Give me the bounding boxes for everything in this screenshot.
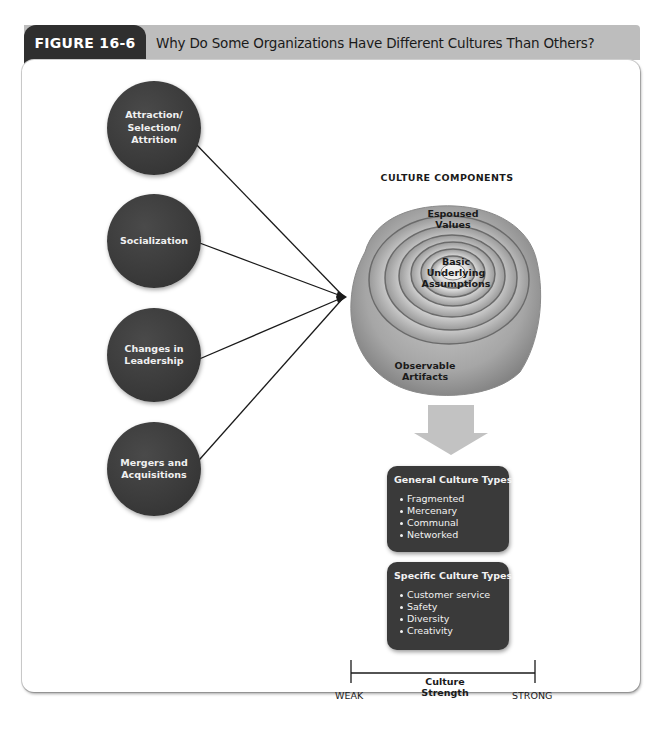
- factor-changes-in-leadership: Changes in Leadership: [107, 308, 201, 402]
- bullet-icon: [400, 630, 403, 633]
- list-item: Creativity: [394, 625, 502, 637]
- bullet-icon: [400, 498, 403, 501]
- list-item: Networked: [394, 529, 502, 541]
- down-arrow-icon: [411, 405, 491, 455]
- list-item: Diversity: [394, 613, 502, 625]
- factor-label: Changes in Leadership: [124, 343, 183, 368]
- factor-label: Attraction/ Selection/ Attrition: [125, 109, 183, 147]
- culture-components-heading: CULTURE COMPONENTS: [352, 172, 542, 183]
- bullet-icon: [400, 522, 403, 525]
- bullet-icon: [400, 594, 403, 597]
- list-item: Mercenary: [394, 505, 502, 517]
- factor-mergers-and-acquisitions: Mergers and Acquisitions: [107, 422, 201, 516]
- general-culture-types-list: Fragmented Mercenary Communal Networked: [394, 493, 502, 541]
- figure-title: Why Do Some Organizations Have Different…: [156, 25, 595, 60]
- specific-culture-types-title: Specific Culture Types: [394, 570, 502, 581]
- bullet-icon: [400, 534, 403, 537]
- factor-attraction-selection-attrition: Attraction/ Selection/ Attrition: [107, 81, 201, 175]
- specific-culture-types-box: Specific Culture Types Customer service …: [387, 562, 509, 650]
- general-culture-types-title: General Culture Types: [394, 474, 502, 485]
- scale-strong-label: STRONG: [512, 690, 552, 701]
- list-item: Fragmented: [394, 493, 502, 505]
- list-item: Communal: [394, 517, 502, 529]
- bullet-icon: [400, 606, 403, 609]
- layer-basic-underlying-assumptions: Basic Underlying Assumptions: [411, 256, 501, 289]
- factor-label: Socialization: [120, 235, 188, 248]
- layer-espoused-values: Espoused Values: [421, 208, 485, 230]
- specific-culture-types-list: Customer service Safety Diversity Creati…: [394, 589, 502, 637]
- culture-onion-diagram: Espoused Values Basic Underlying Assumpt…: [345, 192, 545, 402]
- bullet-icon: [400, 618, 403, 621]
- layer-observable-artifacts: Observable Artifacts: [385, 360, 465, 382]
- bullet-icon: [400, 510, 403, 513]
- list-item: Safety: [394, 601, 502, 613]
- culture-strength-title: Culture Strength: [400, 676, 490, 698]
- factor-label: Mergers and Acquisitions: [120, 457, 187, 482]
- general-culture-types-box: General Culture Types Fragmented Mercena…: [387, 466, 509, 552]
- scale-weak-label: WEAK: [335, 690, 363, 701]
- figure-number-tab: FIGURE 16-6: [24, 25, 146, 65]
- list-item: Customer service: [394, 589, 502, 601]
- factor-socialization: Socialization: [107, 194, 201, 288]
